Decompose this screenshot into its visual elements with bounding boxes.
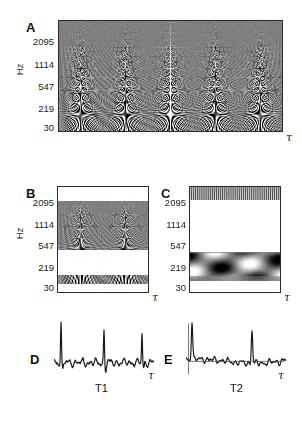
panel-c-scalogram — [189, 186, 281, 293]
panel-a-scalogram — [58, 20, 283, 132]
scal-c-canvas — [190, 187, 280, 292]
panel-c-ytick-30: 30 — [144, 283, 186, 293]
panel-c-x-axis-label: τ — [284, 291, 290, 304]
panel-a-ytick-219: 219 — [12, 104, 54, 114]
panel-d-waveform — [54, 318, 154, 380]
panel-a-ytick-30: 30 — [12, 123, 54, 133]
wave-e-canvas — [186, 318, 286, 380]
scal-b-canvas — [58, 187, 148, 292]
panel-a-ytick-547: 547 — [12, 82, 54, 92]
panel-a-x-axis-label: τ — [286, 131, 292, 144]
panel-c-ytick-1114: 1114 — [144, 220, 186, 230]
panel-b-scalogram — [57, 186, 149, 293]
scal-a-canvas — [58, 20, 283, 132]
wave-d-canvas — [54, 318, 154, 380]
panel-c-ytick-2095: 2095 — [144, 198, 186, 208]
panel-e-x-axis-label: τ — [278, 369, 284, 382]
figure-root: A Hz 2095 1114 547 219 30 τ B Hz 2095 11… — [0, 0, 302, 421]
panel-d-x-axis-label: τ — [148, 369, 154, 382]
panel-b-ytick-2095: 2095 — [12, 198, 54, 208]
panel-b-ytick-547: 547 — [12, 241, 54, 251]
panel-e-signal-label: T2 — [230, 382, 243, 394]
panel-b-ytick-1114: 1114 — [12, 220, 54, 230]
panel-letter-d: D — [30, 352, 39, 367]
panel-b-ytick-30: 30 — [12, 283, 54, 293]
panel-letter-a: A — [26, 20, 35, 35]
panel-a-ytick-2095: 2095 — [12, 37, 54, 47]
panel-c-ytick-219: 219 — [144, 263, 186, 273]
panel-a-ytick-1114: 1114 — [12, 60, 54, 70]
panel-d-signal-label: T1 — [95, 382, 108, 394]
panel-e-waveform — [186, 318, 286, 380]
panel-c-ytick-547: 547 — [144, 241, 186, 251]
panel-b-ytick-219: 219 — [12, 263, 54, 273]
panel-letter-e: E — [164, 352, 173, 367]
